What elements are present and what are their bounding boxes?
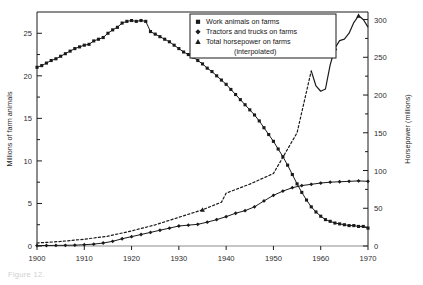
data-marker — [158, 35, 161, 38]
chart-canvas: 1900191019201930194019501960197005101520… — [0, 0, 423, 285]
data-marker — [102, 36, 105, 39]
data-marker — [253, 113, 256, 116]
data-marker — [173, 44, 176, 47]
data-marker — [177, 47, 180, 50]
data-marker — [149, 230, 153, 234]
data-marker — [64, 52, 67, 55]
data-marker — [309, 182, 313, 186]
data-marker — [220, 79, 223, 82]
data-marker — [366, 179, 370, 183]
data-marker — [234, 93, 237, 96]
data-marker — [333, 221, 336, 224]
data-marker — [135, 20, 138, 23]
data-marker — [290, 186, 294, 190]
data-marker — [35, 244, 39, 248]
data-marker — [310, 205, 313, 208]
data-marker — [357, 225, 360, 228]
data-marker — [182, 50, 185, 53]
y-tick-label: 0 — [28, 242, 32, 251]
data-marker — [45, 244, 49, 248]
x-tick-label: 1960 — [312, 254, 329, 263]
data-marker — [168, 226, 172, 230]
data-marker — [63, 243, 67, 247]
data-marker — [92, 242, 96, 246]
data-marker — [357, 179, 361, 183]
x-tick-label: 1950 — [265, 254, 282, 263]
data-marker — [50, 59, 53, 62]
data-marker — [69, 50, 72, 53]
x-tick-label: 1930 — [170, 254, 187, 263]
data-marker — [121, 22, 124, 25]
series-1 — [35, 179, 370, 247]
data-marker — [120, 237, 124, 241]
y-tick-label: 5 — [28, 199, 32, 208]
data-marker — [196, 222, 200, 226]
data-marker — [111, 239, 115, 243]
data-marker — [356, 13, 361, 17]
data-marker — [262, 126, 265, 129]
y2-tick-label: 250 — [374, 53, 387, 62]
data-marker — [130, 19, 133, 22]
data-marker — [139, 19, 142, 22]
data-marker — [258, 119, 261, 122]
legend-marker-square — [196, 20, 200, 24]
data-marker — [83, 44, 86, 47]
data-marker — [277, 147, 280, 150]
figure-container: 1900191019201930194019501960197005101520… — [0, 0, 423, 285]
legend-label: Work animals on farms — [206, 17, 280, 26]
data-marker — [116, 26, 119, 29]
data-marker — [352, 224, 355, 227]
data-marker — [347, 179, 351, 183]
data-marker — [329, 220, 332, 223]
data-marker — [324, 218, 327, 221]
x-tick-label: 1910 — [76, 254, 93, 263]
y2-tick-label: 200 — [374, 91, 387, 100]
data-marker — [205, 220, 209, 224]
y2-tick-label: 150 — [374, 129, 387, 138]
legend-label: Tractors and trucks on farms — [206, 27, 298, 36]
data-marker — [338, 180, 342, 184]
data-marker — [187, 53, 190, 56]
legend-label: Total horsepower on farms — [206, 37, 291, 46]
data-marker — [305, 199, 308, 202]
data-marker — [314, 210, 317, 213]
data-marker — [54, 57, 57, 60]
data-marker — [229, 88, 232, 91]
y2-tick-label: 50 — [374, 204, 382, 213]
data-marker — [343, 223, 346, 226]
y-tick-label: 10 — [24, 157, 32, 166]
data-marker — [243, 209, 247, 213]
y-tick-label: 25 — [24, 29, 32, 38]
data-marker — [154, 33, 157, 36]
data-marker — [158, 228, 162, 232]
data-marker — [139, 233, 143, 237]
data-marker — [281, 189, 285, 193]
y-tick-label: 15 — [24, 114, 32, 123]
data-marker — [45, 62, 48, 65]
data-marker — [267, 133, 270, 136]
data-marker — [225, 83, 228, 86]
y2-tick-label: 100 — [374, 167, 387, 176]
figure-caption: Figure 12. — [8, 270, 45, 279]
data-marker — [149, 30, 152, 33]
series-line — [37, 181, 368, 246]
data-marker — [319, 215, 322, 218]
horsepower-dotted-segment — [37, 71, 311, 243]
data-marker — [319, 181, 323, 185]
data-marker — [125, 20, 128, 23]
data-marker — [40, 64, 43, 67]
y2-tick-label: 300 — [374, 16, 387, 25]
x-tick-label: 1970 — [360, 254, 377, 263]
data-marker — [59, 55, 62, 58]
data-marker — [144, 20, 147, 23]
y2-axis-title: Horsepower (millions) — [403, 94, 412, 164]
data-marker — [163, 38, 166, 41]
y-tick-label: 20 — [24, 72, 32, 81]
x-tick-label: 1900 — [29, 254, 46, 263]
data-marker — [272, 140, 275, 143]
data-marker — [196, 59, 199, 62]
data-marker — [106, 32, 109, 35]
data-marker — [97, 38, 100, 41]
data-marker — [215, 74, 218, 77]
data-marker — [130, 235, 134, 239]
